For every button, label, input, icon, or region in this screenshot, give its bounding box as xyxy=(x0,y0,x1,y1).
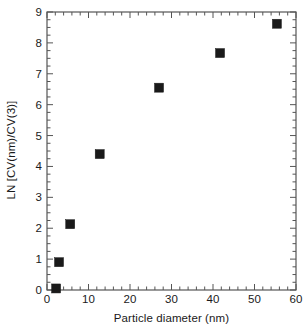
data-point xyxy=(66,220,75,229)
data-series-markers xyxy=(52,19,282,293)
tick-marks xyxy=(47,12,296,290)
data-point xyxy=(52,284,61,293)
plot-area xyxy=(0,0,304,334)
data-point xyxy=(155,83,164,92)
data-point xyxy=(216,49,225,58)
chart-figure: LN [CV(nm)/CV(3)] 0123456789 01020304050… xyxy=(0,0,304,334)
data-point xyxy=(272,19,281,28)
axis-frame xyxy=(47,12,296,290)
data-point xyxy=(55,258,64,267)
data-point xyxy=(95,150,104,159)
